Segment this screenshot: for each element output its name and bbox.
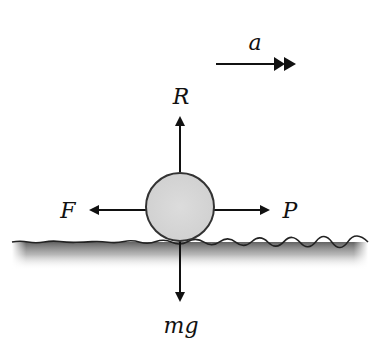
pull-force-label: P [282,198,299,223]
normal-force-label: R [172,84,190,109]
ball-body [146,173,214,241]
arrowhead-icon [274,57,285,71]
acceleration-label: a [248,30,261,55]
arrowhead-icon [284,57,296,71]
acceleration-arrow [216,57,296,71]
free-body-diagram: a R F P mg [0,0,381,353]
friction-force-label: F [59,198,76,223]
ground-surface [12,236,368,270]
weight-force-label: mg [164,313,199,338]
